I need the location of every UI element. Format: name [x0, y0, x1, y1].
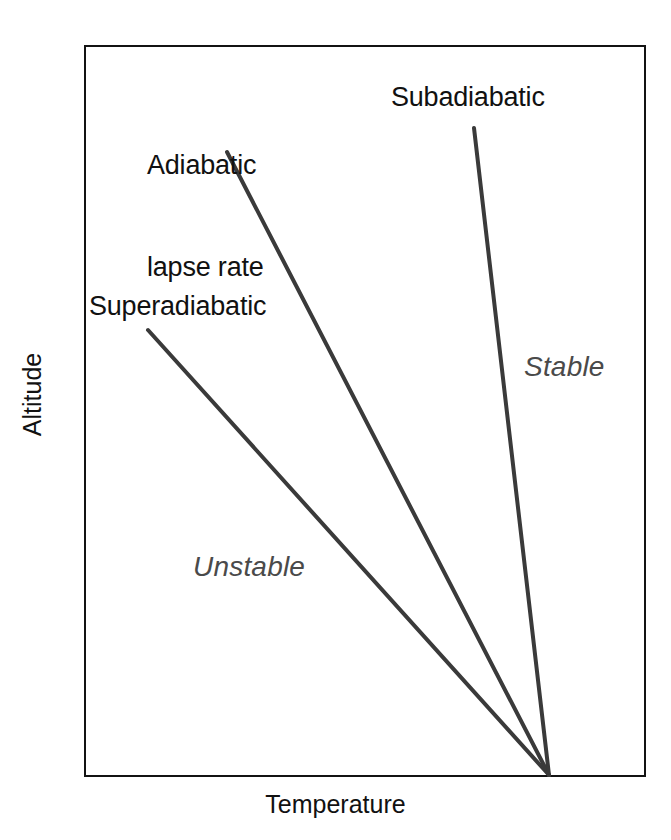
curve-label-superadiabatic: Superadiabatic: [89, 289, 266, 323]
region-label-unstable: Unstable: [193, 551, 305, 583]
curve-label-adiabatic-line2: lapse rate: [147, 250, 264, 284]
y-axis-title: Altitude: [18, 335, 47, 455]
region-label-stable: Stable: [524, 351, 605, 383]
curve-label-adiabatic-line1: Adiabatic: [147, 148, 264, 182]
curve-label-subadiabatic: Subadiabatic: [391, 80, 545, 114]
x-axis-title: Temperature: [0, 790, 671, 819]
lapse-rate-diagram: Adiabatic lapse rate Subadiabatic Supera…: [0, 0, 671, 840]
